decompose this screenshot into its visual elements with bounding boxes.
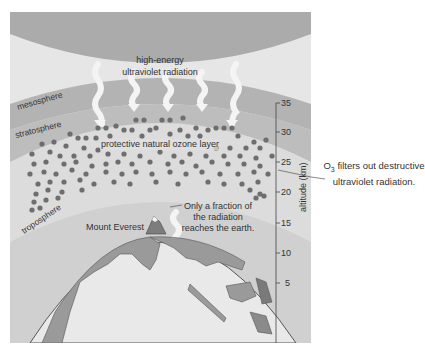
tick-10: 10 [281, 248, 291, 258]
tick-25: 25 [281, 157, 291, 167]
altitude-axis-title: altitude (km) [298, 162, 308, 212]
tick-35: 35 [281, 98, 291, 108]
callout-line1: O3 filters out destructive [323, 160, 425, 176]
tick-15: 15 [281, 218, 291, 228]
tick-30: 30 [281, 127, 291, 137]
uv-label-line2: ultraviolet radiation [122, 67, 198, 77]
uv-label-line1: high-energy [136, 55, 184, 65]
callout-line2: ultraviolet radiation. [323, 176, 425, 188]
ozone-callout: O3 filters out destructive ultraviolet r… [323, 160, 425, 188]
fraction-label-line1: Only a fraction of [184, 201, 253, 211]
ozone-layer-label: protective natural ozone layer [101, 139, 219, 149]
ozone-diagram: 35 30 25 20 15 10 5 altitude (km) high-e… [10, 12, 311, 343]
tick-20: 20 [281, 187, 291, 197]
fraction-label-line3: reaches the earth. [182, 223, 255, 233]
tick-5: 5 [285, 278, 290, 288]
atmosphere-illustration: 35 30 25 20 15 10 5 altitude (km) high-e… [10, 12, 311, 343]
mount-everest-label: Mount Everest [86, 222, 145, 232]
fraction-label-line2: the radiation [193, 212, 243, 222]
